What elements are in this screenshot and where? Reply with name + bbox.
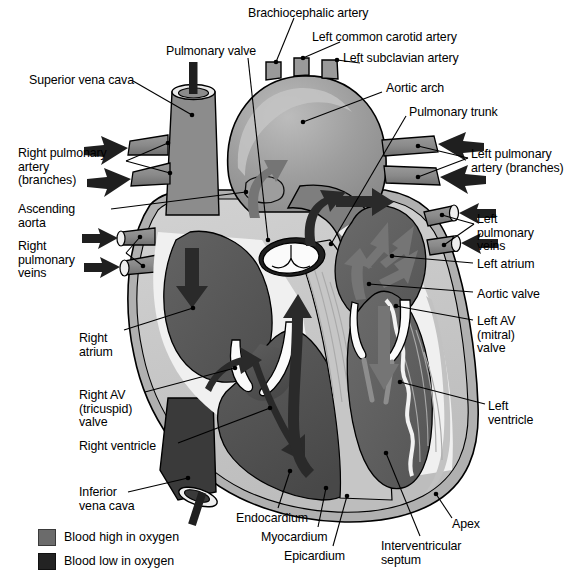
line-3: (branches) (18, 173, 76, 187)
label-ascending-aorta: Ascendingaorta (18, 203, 75, 230)
line-2: septum (381, 553, 421, 567)
label-right-ventricle: Right ventricle (79, 440, 156, 454)
line-2: (tricuspid) (79, 402, 132, 416)
line-2: atrium (79, 345, 113, 359)
label-apex: Apex (452, 518, 480, 532)
line-1: Right AV (79, 388, 126, 402)
label-left-common-carotid-artery: Left common carotid artery (312, 31, 457, 45)
line-2: aorta (18, 216, 46, 230)
rpv-lower-arrow (84, 257, 120, 278)
line-1: Ascending (18, 202, 75, 216)
label-right-atrium: Rightatrium (79, 332, 113, 359)
label-left-pulmonary-artery: Left pulmonaryartery (branches) (471, 148, 564, 175)
line-3: veins (18, 266, 46, 280)
label-right-av-tricuspid-valve: Right AV(tricuspid)valve (79, 389, 132, 430)
line-3: valve (477, 341, 505, 355)
legend-swatch-blood-high-oxygen (38, 529, 56, 546)
label-left-pulmonary-veins: Leftpulmonaryveins (477, 213, 534, 254)
label-brachiocephalic-artery: Brachiocephalic artery (248, 7, 368, 21)
label-left-av-mitral-valve: Left AV(mitral)valve (477, 315, 515, 356)
line-3: valve (79, 415, 107, 429)
legend-label-blood-high-oxygen: Blood high in oxygen (64, 530, 179, 544)
label-epicardium: Epicardium (284, 550, 345, 564)
lpv-lower-rim (452, 236, 461, 252)
label-pulmonary-trunk: Pulmonary trunk (409, 106, 498, 120)
label-myocardium: Myocardium (261, 531, 327, 545)
label-left-atrium: Left atrium (477, 258, 534, 272)
lpa-branch-upper (382, 136, 438, 156)
heart-anatomy-figure: Brachiocephalic artery Left common carot… (0, 0, 580, 582)
lpa-branch-lower (384, 166, 440, 185)
brachiocephalic-artery-stub (266, 62, 281, 80)
label-pulmonary-valve: Pulmonary valve (166, 45, 256, 59)
line-1: Right (79, 331, 107, 345)
left-common-carotid-stub (294, 58, 309, 76)
label-aortic-arch: Aortic arch (386, 82, 444, 96)
left-subclavian-stub (322, 60, 338, 79)
legend-swatch-blood-low-oxygen (38, 553, 56, 570)
legend-label-blood-low-oxygen: Blood low in oxygen (64, 554, 174, 568)
leader-brachiocephalic (276, 18, 294, 62)
rpv-upper-arrow (82, 228, 118, 249)
line-1: Right pulmonary (18, 146, 107, 160)
line-1: Left (477, 212, 497, 226)
label-left-ventricle: Leftventricle (488, 400, 533, 427)
label-right-pulmonary-artery: Right pulmonaryartery(branches) (18, 147, 107, 188)
label-aortic-valve: Aortic valve (477, 288, 540, 302)
line-1: Left (488, 399, 508, 413)
label-superior-vena-cava: Superior vena cava (29, 74, 134, 88)
label-left-subclavian-artery: Left subclavian artery (343, 52, 459, 66)
inferior-vena-cava-vessel (160, 398, 216, 500)
line-1: Inferior (79, 485, 117, 499)
line-3: veins (477, 239, 505, 253)
line-2: pulmonary (477, 226, 534, 240)
svc-flow-arrow-shaft (189, 62, 198, 94)
rpv-upper-rim (117, 231, 125, 246)
line-1: Left pulmonary (471, 147, 552, 161)
leader-apex (436, 494, 452, 518)
label-right-pulmonary-veins: Rightpulmonaryveins (18, 240, 75, 281)
label-endocardium: Endocardium (236, 512, 308, 526)
line-2: (mitral) (477, 328, 515, 342)
line-2: artery (18, 160, 49, 174)
line-2: vena cava (79, 499, 135, 513)
line-2: artery (branches) (471, 161, 564, 175)
line-1: Left AV (477, 314, 515, 328)
line-2: pulmonary (18, 253, 75, 267)
rpv-lower-rim (120, 260, 129, 276)
label-inferior-vena-cava: Inferiorvena cava (79, 486, 135, 513)
line-2: ventricle (488, 413, 533, 427)
line-1: Interventricular (381, 539, 461, 553)
rpa-branch-lower (131, 163, 170, 186)
label-interventricular-septum: Interventricularseptum (381, 540, 461, 567)
line-1: Right (18, 239, 46, 253)
